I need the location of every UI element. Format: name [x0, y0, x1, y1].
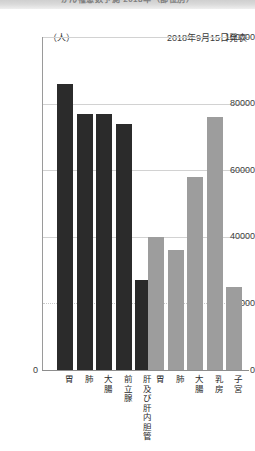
x-tick-label-子宮: 子宮: [227, 375, 241, 394]
x-tick-label-乳房: 乳房: [208, 375, 222, 394]
y-tick-label-zero: 0: [22, 365, 38, 375]
x-tick-label-胃: 胃: [58, 375, 72, 385]
x-tick-label-前立腺: 前立腺: [117, 375, 131, 404]
x-tick-label-肺: 肺: [169, 375, 183, 385]
bar-女性-乳房: [207, 117, 223, 370]
bar-男性-胃: [57, 84, 73, 370]
x-tick-label-肺: 肺: [78, 375, 92, 385]
bar-男性-前立腺: [116, 124, 132, 370]
bar-女性-子宮: [226, 287, 242, 370]
x-tick-label-大腸: 大腸: [188, 375, 202, 394]
x-tick-label-大腸: 大腸: [97, 375, 111, 394]
x-tick-label-胃: 胃: [149, 375, 163, 385]
bar-女性-大腸: [187, 177, 203, 370]
bar-女性-胃: [148, 237, 164, 370]
bar-男性-大腸: [96, 114, 112, 370]
x-tick-label-肝及び肝内胆管: 肝及び肝内胆管: [136, 375, 150, 442]
bar-男性-肺: [77, 114, 93, 370]
bar-女性-肺: [168, 250, 184, 370]
chart-page: がん罹患数予測 2018年（部位別） （人） 2018年9月15日発表 0200…: [0, 0, 255, 451]
